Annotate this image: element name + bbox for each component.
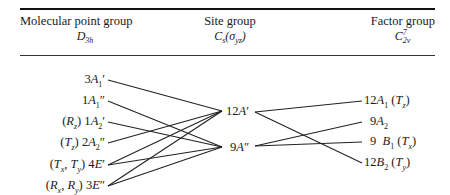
line-4Ep-9App <box>108 147 222 165</box>
line-12Ap-12B2 <box>255 112 362 163</box>
line-3Epp-12Ap <box>108 111 222 186</box>
line-3Epp-9App <box>108 147 222 186</box>
line-3A1p-12Ap <box>108 80 222 111</box>
line-12Ap-12A1 <box>255 101 362 112</box>
correlation-lines <box>0 0 450 195</box>
line-1A1pp-9App <box>108 101 222 147</box>
line-1A2p-9App <box>108 122 222 147</box>
